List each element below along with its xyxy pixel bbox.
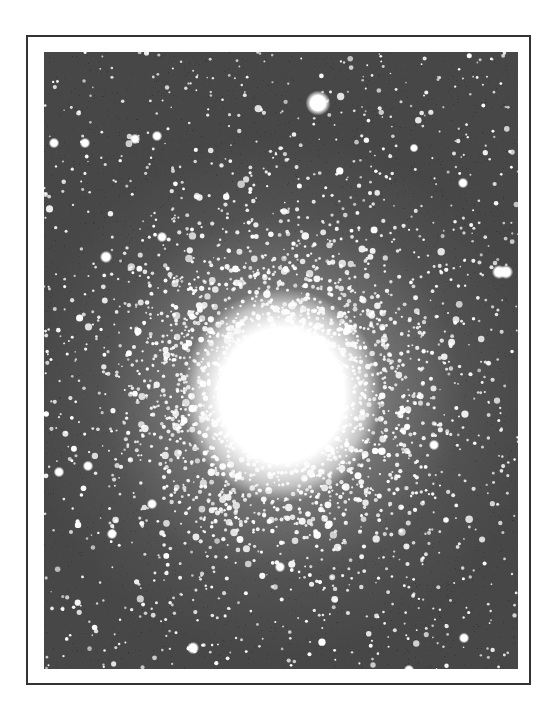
- star-field-image: [44, 52, 518, 669]
- globular-cluster-photo: [44, 52, 518, 669]
